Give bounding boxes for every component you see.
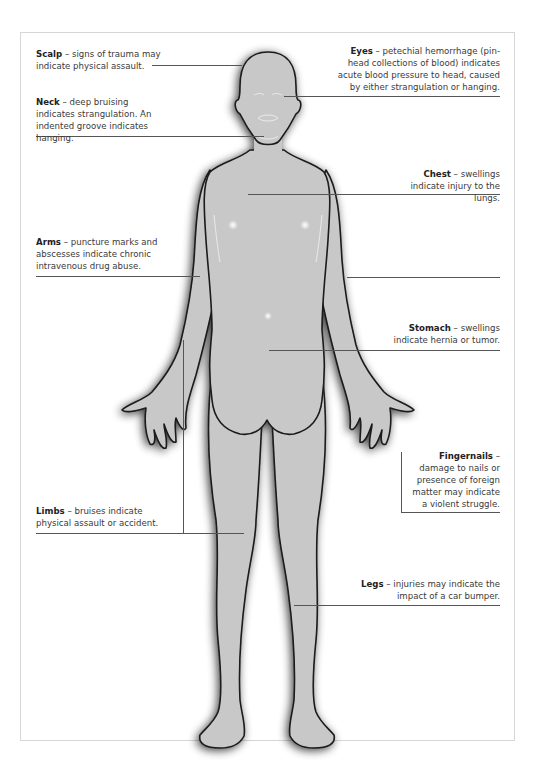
- scalp-label: Scalp – signs of trauma may indicate phy…: [36, 48, 166, 72]
- chest-highlight-left: [228, 220, 238, 230]
- fingernails-description: damage to nails or presence of foreign m…: [412, 463, 500, 509]
- chest-highlight-right: [300, 220, 310, 230]
- fingernails-leader: [401, 512, 500, 513]
- arms-leader: [36, 276, 200, 277]
- eyes-label: Eyes – petechial hemorrhage (pin-head co…: [330, 45, 500, 93]
- limbs-term: Limbs: [36, 506, 65, 516]
- legs-leader: [294, 605, 500, 606]
- arms-term: Arms: [36, 237, 61, 247]
- arms-label: Arms – puncture marks and abscesses indi…: [36, 236, 166, 272]
- fingernails-term: Fingernails: [439, 451, 493, 461]
- limbs-leader: [36, 533, 244, 534]
- limbs-leader-vertical: [183, 340, 184, 533]
- fingernails-label: Fingernails –damage to nails or presence…: [408, 450, 500, 510]
- eyes-term: Eyes: [350, 46, 372, 56]
- eyes-leader: [284, 96, 500, 97]
- scalp-term: Scalp: [36, 49, 62, 59]
- arms-leader-right: [347, 277, 500, 278]
- stomach-term: Stomach: [409, 323, 451, 333]
- legs-label: Legs – injuries may indicate the impact …: [360, 578, 500, 602]
- navel-highlight: [264, 312, 272, 320]
- chest-label: Chest – swellings indicate injury to the…: [390, 168, 500, 204]
- limbs-label: Limbs – bruises indicate physical assaul…: [36, 505, 166, 529]
- stomach-label: Stomach – swellings indicate hernia or t…: [390, 322, 500, 346]
- torso: [204, 150, 330, 434]
- stomach-leader: [269, 350, 500, 351]
- neck-label: Neck – deep bruising indicates strangula…: [36, 96, 166, 144]
- fingernails-leader-vertical: [401, 452, 402, 512]
- legs-description: injuries may indicate the impact of a ca…: [393, 579, 500, 601]
- head: [235, 52, 301, 145]
- neck-term: Neck: [36, 97, 60, 107]
- legs-term: Legs: [361, 579, 384, 589]
- chest-term: Chest: [423, 169, 450, 179]
